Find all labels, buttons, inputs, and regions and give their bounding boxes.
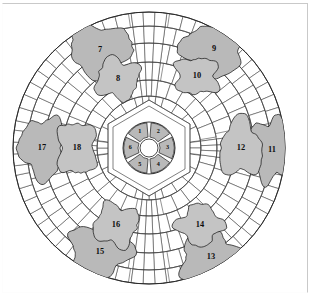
walkway-block bbox=[154, 269, 167, 284]
region-label-10: 10 bbox=[193, 71, 201, 80]
walkway-block bbox=[145, 216, 153, 234]
walkway-block bbox=[201, 145, 217, 151]
region-label-14: 14 bbox=[196, 220, 205, 229]
petal-label-2: 2 bbox=[157, 127, 160, 134]
figure-container: 789101112131415161718 123456 bbox=[0, 0, 312, 295]
region-label-8: 8 bbox=[116, 74, 120, 83]
walkway-block bbox=[145, 62, 153, 80]
petal-label-4: 4 bbox=[157, 160, 160, 167]
walkway-block bbox=[154, 252, 165, 270]
petal-label-5: 5 bbox=[138, 160, 141, 167]
region-label-13: 13 bbox=[207, 252, 215, 261]
region-label-15: 15 bbox=[96, 247, 104, 256]
walkway-block bbox=[131, 269, 144, 284]
petal-label-1: 1 bbox=[138, 127, 141, 134]
region-label-11: 11 bbox=[268, 145, 276, 154]
walkway-block bbox=[133, 26, 144, 44]
walkway-block bbox=[146, 200, 152, 216]
petal-label-6: 6 bbox=[129, 143, 132, 150]
walkway-block bbox=[146, 80, 152, 96]
plaza-plan-drawing: 789101112131415161718 123456 bbox=[0, 0, 312, 295]
region-label-16: 16 bbox=[112, 220, 120, 229]
region-label-17: 17 bbox=[38, 143, 46, 152]
region-label-18: 18 bbox=[73, 143, 81, 152]
region-label-9: 9 bbox=[212, 44, 216, 53]
walkway-block bbox=[143, 12, 155, 26]
walkway-block bbox=[144, 234, 153, 253]
walkway-block bbox=[144, 253, 155, 270]
rosette-hub bbox=[140, 139, 158, 157]
walkway-block bbox=[144, 26, 155, 43]
walkway-block bbox=[131, 12, 144, 27]
region-label-12: 12 bbox=[237, 143, 245, 152]
walkway-block bbox=[154, 12, 167, 27]
walkway-block bbox=[144, 43, 153, 62]
region-label-7: 7 bbox=[98, 45, 102, 54]
walkway-block bbox=[154, 26, 165, 44]
petal-label-3: 3 bbox=[166, 143, 169, 150]
walkway-block bbox=[143, 270, 155, 284]
